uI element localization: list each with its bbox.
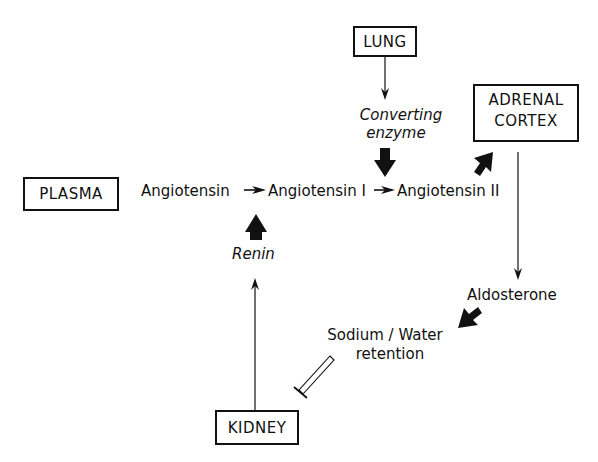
angiotensin-to-ang1-arrow-icon xyxy=(244,186,266,194)
ang1-to-ang2-arrow-icon xyxy=(374,186,395,194)
ang2-to-adrenal-arrow-icon xyxy=(474,152,493,176)
enzyme-thick-arrow-icon xyxy=(374,148,396,177)
sodium-inhibits-kidney-icon xyxy=(294,356,334,398)
aldosterone-to-sodium-arrow-icon xyxy=(458,307,482,328)
kidney-to-renin-arrow-icon xyxy=(251,278,259,410)
renin-thick-arrow-icon xyxy=(245,214,267,240)
arrows-layer xyxy=(0,0,598,462)
adrenal-to-aldosterone-arrow-icon xyxy=(514,152,522,280)
lung-to-enzyme-arrow-icon xyxy=(381,57,389,100)
